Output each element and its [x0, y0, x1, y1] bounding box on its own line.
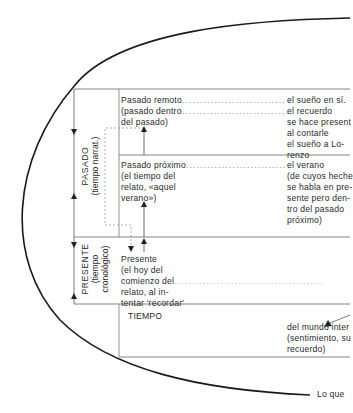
presente-subtitle-2: cronológico) — [100, 240, 110, 298]
row-pasado-remoto-left: Pasado remoto...........................… — [121, 95, 289, 128]
presente-label: PRESENTE (tiempo cronológico) — [80, 240, 110, 298]
tiempo-right: del mundo inter (sentimiento, su recuerd… — [287, 322, 351, 355]
presente-title: PRESENTE — [80, 240, 90, 298]
pasado-subtitle: (tiempo narrat.) — [90, 136, 100, 196]
row-pasado-remoto-right: el sueño en sí. el recuerdo se hace pres… — [287, 95, 351, 161]
row-pasado-proximo-right: el verano (de cuyos heche se habla en pr… — [287, 160, 353, 226]
pasado-label: PASADO (tiempo narrat.) — [80, 136, 100, 196]
row-pasado-proximo-left: Pasado próximo..........................… — [121, 160, 286, 204]
tiempo-label: TIEMPO — [128, 311, 162, 322]
row-presente-left: Presente (el hoy del comienzo del.......… — [121, 254, 325, 309]
pasado-title: PASADO — [80, 136, 90, 196]
presente-subtitle-1: (tiempo — [90, 240, 100, 298]
footer-label: Lo que — [317, 389, 345, 400]
